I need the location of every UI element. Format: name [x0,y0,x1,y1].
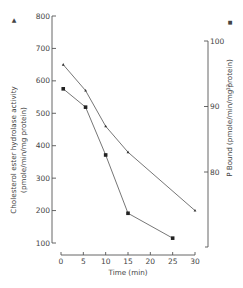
right-legend-marker: ■ [228,19,233,25]
square-marker [84,105,88,109]
x-tick-label: 15 [123,257,133,266]
triangle-marker [62,63,65,66]
left-tick-label: 100 [36,239,51,248]
right-tick-label: 100 [210,37,225,46]
left-y-axis: 100200300400500600700800 [36,12,56,248]
x-axis-title: Time (min) [107,268,147,277]
left-tick-label: 600 [36,76,51,85]
left-tick-label: 800 [36,12,51,21]
left-tick-label: 400 [36,141,51,150]
left-tick-label: 200 [36,206,51,215]
right-tick-label: 80 [210,168,220,177]
x-tick-label: 5 [81,257,86,266]
left-tick-label: 300 [36,174,51,183]
x-tick-label: 25 [168,257,178,266]
left-axis-title-line1: Cholesterol ester hydrolase activity [9,86,18,214]
left-axis-title-line2: (pmole/min/mg protein) [19,107,28,193]
square-marker [126,211,130,215]
dual-axis-line-chart: 100200300400500600700800 8090100 0510152… [0,0,243,288]
right-y-axis: 8090100 [204,37,225,247]
x-tick-label: 20 [146,257,156,266]
x-axis: 051015202530 [59,252,200,266]
square-marker [171,236,175,240]
left-legend-marker: ▲ [12,16,17,23]
square-marker [104,153,108,157]
x-tick-label: 30 [190,257,200,266]
x-tick-label: 0 [59,257,64,266]
left-series-line [63,65,195,211]
series-group [61,63,196,240]
right-axis-title-text: P Bound (pmole/min/mg protein) [225,59,234,177]
right-series-line [63,89,172,238]
x-tick-label: 10 [101,257,111,266]
left-tick-label: 700 [36,44,51,53]
square-marker [61,87,65,91]
right-tick-label: 90 [210,102,220,111]
left-tick-label: 500 [36,109,51,118]
